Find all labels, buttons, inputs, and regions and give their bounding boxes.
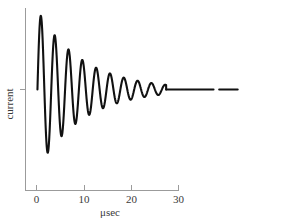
x-tick-label-10: 10 (79, 193, 91, 205)
x-tick-label-20: 20 (126, 193, 138, 205)
x-tick-label-0: 0 (34, 193, 40, 205)
x-axis-title: μsec (100, 206, 120, 218)
y-axis-title: current (3, 88, 15, 119)
damped-oscillation-curve (37, 16, 166, 153)
damped-oscillation-chart: 0 10 20 30 μsec current (0, 0, 282, 222)
x-tick-label-30: 30 (173, 193, 185, 205)
figure-container: 0 10 20 30 μsec current (0, 0, 282, 222)
